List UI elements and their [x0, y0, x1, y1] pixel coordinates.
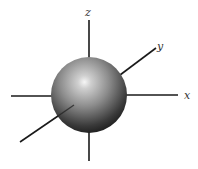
- y-axis-label: y: [156, 40, 164, 53]
- orbital-diagram: z y x: [0, 0, 198, 169]
- y-axis-negative: [20, 116, 58, 142]
- y-axis-positive: [120, 48, 156, 75]
- s-orbital-sphere: [51, 57, 127, 133]
- x-axis-label: x: [184, 89, 191, 102]
- z-axis-label: z: [84, 6, 91, 19]
